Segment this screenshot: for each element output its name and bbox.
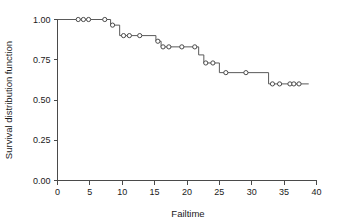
x-tick-label: 35 [279, 187, 289, 197]
x-tick-group [58, 181, 317, 185]
censored-point-marker [211, 61, 215, 65]
x-tick-label: 30 [247, 187, 257, 197]
x-tick-label: 40 [311, 187, 321, 197]
censored-point-marker [156, 39, 160, 43]
survival-step-curve [58, 20, 309, 84]
x-tick-label-group: 0510152025303540 [55, 187, 322, 197]
y-tick-label: 0.25 [33, 135, 51, 145]
censored-point-marker [297, 82, 301, 86]
censored-point-marker [224, 71, 228, 75]
censored-point-marker [244, 71, 248, 75]
censored-point-marker [86, 17, 90, 21]
censored-point-marker [121, 34, 125, 38]
censored-point-marker [270, 82, 274, 86]
censored-point-marker [292, 82, 296, 86]
plot-area [58, 17, 309, 86]
censored-point-marker [110, 23, 114, 27]
censored-observation-markers [76, 17, 301, 86]
chart-canvas: 0.000.250.500.751.00 0510152025303540 Fa… [0, 0, 342, 223]
censored-point-marker [180, 45, 184, 49]
y-tick-label: 0.75 [33, 55, 51, 65]
censored-point-marker [138, 34, 142, 38]
y-tick-label-group: 0.000.250.500.751.00 [33, 15, 51, 186]
y-tick-label: 1.00 [33, 15, 51, 25]
x-tick-label: 10 [117, 187, 127, 197]
censored-point-marker [81, 17, 85, 21]
censored-point-marker [161, 45, 165, 49]
censored-point-marker [76, 17, 80, 21]
y-axis-title: Survival distribution function [3, 41, 14, 159]
x-tick-label: 0 [55, 187, 60, 197]
x-tick-label: 20 [182, 187, 192, 197]
y-axis-group: 0.000.250.500.751.00 [33, 15, 58, 186]
censored-point-marker [127, 34, 131, 38]
x-tick-label: 5 [87, 187, 92, 197]
y-tick-label: 0.00 [33, 176, 51, 186]
y-tick-group [54, 20, 58, 181]
censored-point-marker [277, 82, 281, 86]
y-tick-label: 0.50 [33, 95, 51, 105]
censored-point-marker [193, 45, 197, 49]
x-axis-title: Failtime [171, 208, 204, 219]
x-tick-label: 15 [150, 187, 160, 197]
censored-point-marker [204, 61, 208, 65]
censored-point-marker [167, 45, 171, 49]
survival-chart: 0.000.250.500.751.00 0510152025303540 Fa… [0, 0, 342, 223]
censored-point-marker [103, 17, 107, 21]
x-axis-group: 0510152025303540 [55, 181, 322, 197]
x-tick-label: 25 [214, 187, 224, 197]
